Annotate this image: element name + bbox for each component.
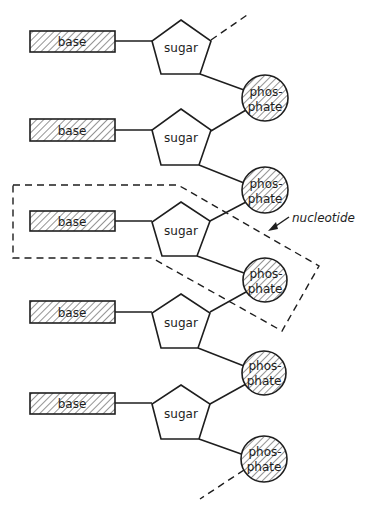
phosphate-label-line1: phos- bbox=[249, 177, 282, 191]
phosphate-label-line2: phate bbox=[248, 192, 283, 206]
nucleotide-arrowhead-icon bbox=[268, 222, 278, 231]
chain-continuation-top bbox=[211, 13, 250, 40]
phosphate-label-line2: phate bbox=[247, 460, 282, 474]
sugar-label: sugar bbox=[164, 41, 198, 55]
sugar-phosphate-bond bbox=[197, 256, 244, 273]
base-label: base bbox=[58, 35, 87, 49]
sugar-label: sugar bbox=[164, 407, 198, 421]
backbone-unit-5: base sugar phos- phate bbox=[30, 385, 287, 482]
chain-continuation-bottom bbox=[200, 470, 244, 499]
sugar-label: sugar bbox=[164, 131, 198, 145]
nucleotide-label: nucleotide bbox=[292, 211, 355, 225]
backbone-unit-2: base sugar phos- phate bbox=[30, 109, 288, 221]
backbone-unit-3: base sugar phos- phate bbox=[30, 202, 287, 312]
phosphate-next-sugar-bond bbox=[210, 202, 246, 221]
sugar-phosphate-bond bbox=[198, 348, 244, 366]
phosphate-next-sugar-bond bbox=[210, 292, 246, 312]
phosphate-label-line1: phos- bbox=[248, 359, 281, 373]
backbone-unit-1: base sugar phos- phate bbox=[30, 20, 288, 131]
dna-backbone-diagram: nucleotide base sugar phos- phate base s… bbox=[0, 0, 368, 509]
sugar-phosphate-bond bbox=[199, 439, 244, 455]
phosphate-circle bbox=[242, 351, 286, 395]
phosphate-label-line2: phate bbox=[248, 282, 283, 296]
sugar-label: sugar bbox=[164, 224, 198, 238]
phosphate-next-sugar-bond bbox=[210, 384, 246, 404]
base-label: base bbox=[58, 124, 87, 138]
phosphate-label-line1: phos- bbox=[249, 267, 282, 281]
phosphate-label-line1: phos- bbox=[248, 445, 281, 459]
base-label: base bbox=[58, 306, 87, 320]
phosphate-label-line2: phate bbox=[247, 374, 282, 388]
sugar-phosphate-bond bbox=[200, 74, 244, 90]
base-label: base bbox=[58, 397, 87, 411]
phosphate-label-line1: phos- bbox=[249, 85, 282, 99]
sugar-label: sugar bbox=[164, 316, 198, 330]
phosphate-circle bbox=[241, 436, 287, 482]
backbone-unit-4: base sugar phos- phate bbox=[30, 294, 286, 404]
base-label: base bbox=[58, 215, 87, 229]
phosphate-next-sugar-bond bbox=[211, 110, 246, 131]
phosphate-label-line2: phate bbox=[248, 100, 283, 114]
sugar-phosphate-bond bbox=[199, 165, 244, 183]
